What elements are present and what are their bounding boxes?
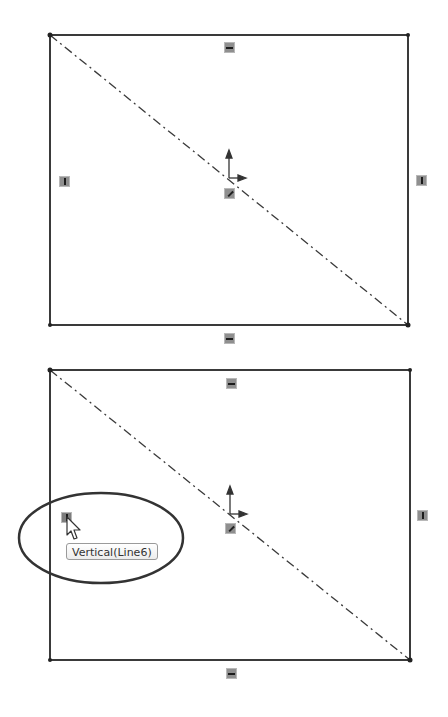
vertex-bottom-right[interactable] <box>406 323 411 328</box>
vertex-top-right[interactable] <box>406 33 410 37</box>
horizontal-relation-icon[interactable] <box>224 42 235 53</box>
coincident-relation-icon[interactable] <box>224 188 235 199</box>
sketch-panel-before <box>0 0 448 350</box>
construction-diagonal[interactable] <box>50 35 408 325</box>
vertical-relation-icon[interactable] <box>59 176 70 187</box>
vertex-bottom-left[interactable] <box>48 323 52 327</box>
mouse-cursor-icon <box>66 516 88 544</box>
vertical-relation-icon[interactable] <box>417 510 428 521</box>
vertex-top-right[interactable] <box>408 368 412 372</box>
origin-axes-icon <box>226 150 246 181</box>
vertex-bottom-right[interactable] <box>408 658 413 663</box>
vertical-relation-icon[interactable] <box>416 175 427 186</box>
sketch-panel-after: Vertical(Line6) <box>0 350 448 717</box>
horizontal-relation-icon[interactable] <box>226 668 237 679</box>
coincident-relation-icon[interactable] <box>225 523 236 534</box>
relation-tooltip: Vertical(Line6) <box>66 543 158 560</box>
horizontal-relation-icon[interactable] <box>226 378 237 389</box>
construction-diagonal[interactable] <box>50 370 410 660</box>
vertex-top-left[interactable] <box>48 33 53 38</box>
highlight-callout-ellipse <box>19 493 183 583</box>
vertex-bottom-left[interactable] <box>48 658 52 662</box>
origin-axes-icon <box>227 486 247 517</box>
horizontal-relation-icon[interactable] <box>224 333 235 344</box>
vertex-top-left[interactable] <box>48 368 53 373</box>
